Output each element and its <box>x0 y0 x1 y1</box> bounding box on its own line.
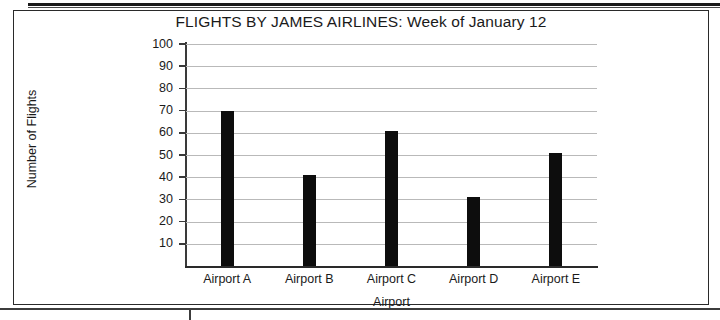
y-axis-tick-label: 70 <box>139 104 173 117</box>
gridline <box>186 44 597 45</box>
page-top-rule <box>28 3 720 6</box>
y-axis-tick <box>179 110 186 112</box>
x-axis-title: Airport <box>186 295 597 309</box>
page-bottom-rule <box>0 308 720 310</box>
bar-airport-b <box>303 175 316 266</box>
y-axis-tick <box>179 199 186 201</box>
page-top-rule-thin <box>28 7 720 8</box>
x-axis-category-label: Airport D <box>433 272 515 286</box>
y-axis-tick <box>179 65 186 67</box>
y-axis-tick-label: 30 <box>139 193 173 206</box>
y-axis-tick-label: 60 <box>139 126 173 139</box>
y-axis-tick-labels: 100908070605040302010 <box>139 0 173 320</box>
y-axis-tick-label: 80 <box>139 82 173 95</box>
y-axis-tick-label: 50 <box>139 149 173 162</box>
y-axis-tick <box>179 154 186 156</box>
x-axis-line <box>185 266 598 268</box>
y-axis-tick-label: 20 <box>139 215 173 228</box>
y-axis-title: Number of Flights <box>25 79 39 199</box>
x-axis-category-label: Airport B <box>268 272 350 286</box>
y-axis-tick-label: 100 <box>139 38 173 51</box>
y-axis-tick <box>179 43 186 45</box>
gridline <box>186 88 597 89</box>
gridline <box>186 111 597 112</box>
chart-title: FLIGHTS BY JAMES AIRLINES: Week of Janua… <box>13 13 709 31</box>
plot-area <box>186 44 597 266</box>
y-axis-tick <box>179 243 186 245</box>
bar-airport-c <box>385 131 398 266</box>
bar-airport-d <box>467 197 480 266</box>
bar-airport-e <box>549 153 562 266</box>
y-axis-tick-label: 10 <box>139 237 173 250</box>
page-bottom-tick <box>189 310 191 320</box>
x-axis-category-label: Airport C <box>350 272 432 286</box>
y-axis-tick <box>179 176 186 178</box>
gridline <box>186 66 597 67</box>
y-axis-tick <box>179 88 186 90</box>
y-axis-tick-label: 90 <box>139 60 173 73</box>
bar-airport-a <box>221 111 234 266</box>
y-axis-tick <box>179 132 186 134</box>
y-axis-tick-label: 40 <box>139 171 173 184</box>
x-axis-category-label: Airport A <box>186 272 268 286</box>
x-axis-category-label: Airport E <box>515 272 597 286</box>
y-axis-tick <box>179 221 186 223</box>
